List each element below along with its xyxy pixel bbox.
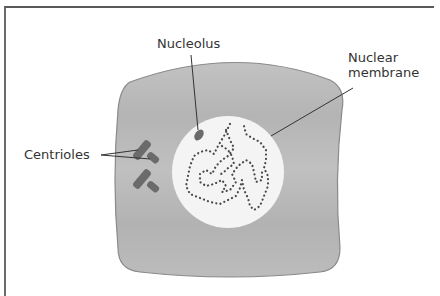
label-centrioles: Centrioles [24, 147, 90, 162]
label-nuclear-membrane: Nuclear membrane [348, 50, 419, 80]
label-nuclear-membrane-line2: membrane [348, 65, 419, 80]
label-nuclear-membrane-line1: Nuclear [348, 50, 419, 65]
label-nucleolus: Nucleolus [157, 36, 220, 51]
